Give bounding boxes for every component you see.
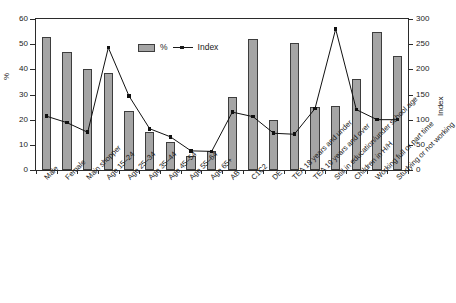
left-tick — [30, 145, 35, 146]
line-marker — [272, 131, 276, 135]
right-tick — [408, 69, 413, 70]
line-marker — [334, 27, 338, 31]
left-axis-title: % — [2, 73, 11, 80]
right-tick-label: 300 — [416, 15, 442, 23]
right-tick-label: 150 — [416, 91, 442, 99]
x-tick — [36, 170, 37, 174]
line-marker — [45, 114, 49, 118]
left-tick-label: 50 — [2, 40, 28, 48]
left-tick-label: 40 — [2, 65, 28, 73]
line-marker — [313, 107, 317, 111]
line-marker — [375, 118, 379, 122]
legend-bar-swatch — [138, 44, 155, 52]
right-tick-label: 0 — [416, 166, 442, 174]
line-marker — [251, 115, 255, 119]
x-tick — [284, 170, 285, 174]
right-tick-label: 200 — [416, 65, 442, 73]
line-marker — [127, 94, 131, 98]
line-marker — [107, 46, 111, 50]
legend-line-label: Index — [198, 43, 219, 52]
left-tick-label: 60 — [2, 15, 28, 23]
line-marker — [231, 110, 235, 114]
right-axis-title: Index — [436, 96, 445, 116]
legend-bar-label: % — [160, 43, 168, 52]
right-tick — [408, 19, 413, 20]
left-tick — [30, 19, 35, 20]
left-tick-label: 20 — [2, 116, 28, 124]
left-tick — [30, 120, 35, 121]
left-tick-label: 0 — [2, 166, 28, 174]
line-marker — [65, 121, 69, 125]
line-marker — [169, 135, 173, 139]
line-marker — [293, 132, 297, 136]
line-marker — [86, 130, 90, 134]
index-line-series — [36, 19, 408, 170]
left-tick — [30, 170, 35, 171]
left-tick — [30, 44, 35, 45]
line-marker — [148, 127, 152, 131]
left-tick — [30, 95, 35, 96]
x-tick — [243, 170, 244, 174]
right-tick — [408, 44, 413, 45]
chart-legend: % Index — [138, 43, 218, 52]
legend-line-swatch — [173, 43, 193, 52]
right-tick-label: 250 — [416, 40, 442, 48]
left-tick-label: 10 — [2, 141, 28, 149]
plot-area — [36, 19, 408, 170]
left-tick — [30, 69, 35, 70]
right-tick — [408, 120, 413, 121]
left-tick-label: 30 — [2, 91, 28, 99]
line-marker — [355, 108, 359, 112]
